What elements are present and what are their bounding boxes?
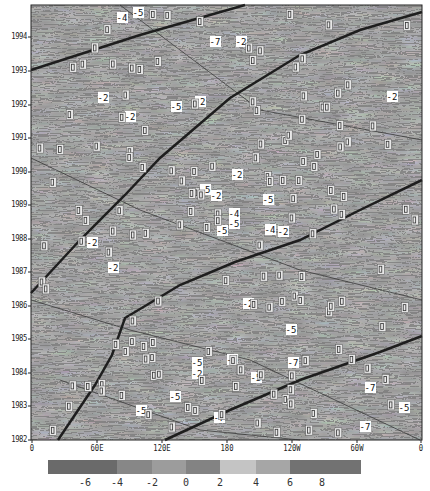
x-tick-label: 120W — [283, 443, 300, 453]
colorbar — [48, 460, 361, 474]
svg-text:-5: -5 — [399, 403, 410, 413]
svg-text:-2: -2 — [278, 227, 289, 237]
svg-text:-5: -5 — [133, 8, 144, 18]
x-tick-label: 180 — [220, 443, 233, 453]
y-tick-label: 1993 — [5, 65, 27, 75]
y-tick-label: 1994 — [5, 31, 27, 41]
hovmoller-chart: -4-5-7-2-2-5-2-2-2-2-5-2-5-4-5-5-4-2-2-2… — [0, 0, 430, 491]
colorbar-tick-label: 2 — [217, 477, 223, 488]
svg-text:-5: -5 — [170, 392, 181, 402]
chart-svg: -4-5-7-2-2-5-2-2-2-2-5-2-5-4-5-5-4-2-2-2… — [0, 0, 430, 491]
svg-text:-2: -2 — [108, 263, 119, 273]
contour-lines — [31, 5, 422, 440]
svg-text:-2: -2 — [211, 191, 222, 201]
x-tick-label: 60W — [350, 443, 363, 453]
colorbar-tick-label: -6 — [79, 477, 91, 488]
svg-text:-7: -7 — [288, 358, 299, 368]
x-tick-label: 0 — [30, 443, 34, 453]
svg-text:-4: -4 — [265, 225, 276, 235]
colorbar-tick-label: 8 — [319, 477, 325, 488]
x-tick-label: 60E — [90, 443, 103, 453]
x-tick-label: 0 — [419, 443, 423, 453]
svg-text:-5: -5 — [286, 325, 297, 335]
svg-text:-2: -2 — [232, 170, 243, 180]
y-tick-label: 1989 — [5, 199, 27, 209]
svg-text:-2: -2 — [236, 37, 247, 47]
colorbar-tick-label: -4 — [111, 477, 123, 488]
svg-text:-4: -4 — [117, 13, 128, 23]
colorbar-tick-label: 4 — [253, 477, 259, 488]
y-tick-label: 1982 — [5, 434, 27, 444]
svg-text:-2: -2 — [125, 112, 136, 122]
y-tick-label: 1992 — [5, 99, 27, 109]
y-tick-label: 1991 — [5, 132, 27, 142]
svg-text:-5: -5 — [229, 219, 240, 229]
y-tick-label: 1990 — [5, 166, 27, 176]
svg-text:-2: -2 — [387, 92, 398, 102]
svg-text:-5: -5 — [171, 102, 182, 112]
y-tick-label: 1986 — [5, 300, 27, 310]
svg-text:-2: -2 — [87, 238, 98, 248]
svg-text:-2: -2 — [98, 93, 109, 103]
y-tick-label: 1983 — [5, 400, 27, 410]
y-tick-label: 1984 — [5, 367, 27, 377]
svg-text:-7: -7 — [210, 37, 221, 47]
x-tick-label: 120E — [153, 443, 170, 453]
svg-text:-5: -5 — [263, 195, 274, 205]
colorbar-tick-label: -2 — [146, 477, 158, 488]
svg-text:-5: -5 — [217, 226, 228, 236]
svg-text:-7: -7 — [365, 383, 376, 393]
y-tick-label: 1988 — [5, 233, 27, 243]
y-tick-label: 1985 — [5, 333, 27, 343]
svg-text:-4: -4 — [229, 209, 240, 219]
svg-text:-5: -5 — [192, 358, 203, 368]
colorbar-tick-label: 6 — [287, 477, 293, 488]
svg-text:-7: -7 — [360, 422, 371, 432]
colorbar-tick-label: 0 — [183, 477, 189, 488]
y-tick-label: 1987 — [5, 266, 27, 276]
